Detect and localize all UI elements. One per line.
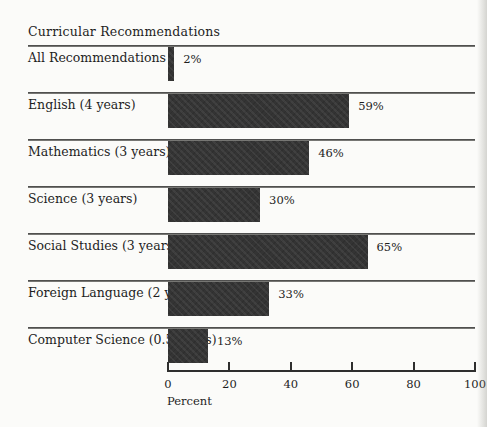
bar	[168, 188, 260, 222]
x-axis-tick	[351, 362, 353, 372]
x-axis-tick-label: 40	[283, 377, 298, 391]
bar	[168, 94, 349, 128]
x-axis-tick-label: 80	[406, 377, 421, 391]
bar	[168, 282, 269, 316]
bar-row: Science (3 years)30%	[28, 186, 475, 233]
value-label: 13%	[217, 334, 243, 348]
x-axis-tick-label: 60	[345, 377, 360, 391]
x-axis-tick	[474, 362, 476, 372]
x-axis-tick	[413, 362, 415, 372]
row-separator	[28, 45, 475, 47]
value-label: 2%	[183, 52, 201, 66]
bar-row: Computer Science (0.5 years)13%	[28, 327, 475, 374]
value-label: 65%	[377, 240, 403, 254]
bar-rows: All Recommendations2%English (4 years)59…	[28, 45, 475, 374]
value-label: 59%	[358, 99, 384, 113]
category-label: Social Studies (3 years)	[28, 238, 178, 253]
x-axis-tick	[290, 362, 292, 372]
bar-row: Foreign Language (2 years)33%	[28, 280, 475, 327]
x-axis-label: Percent	[167, 394, 212, 408]
row-separator	[28, 327, 475, 329]
category-label: All Recommendations	[28, 50, 166, 65]
bar	[168, 329, 208, 363]
value-label: 30%	[269, 193, 295, 207]
x-axis-tick	[167, 362, 169, 372]
category-label: Science (3 years)	[28, 191, 137, 206]
x-axis-tick-label: 0	[164, 377, 171, 391]
category-label: English (4 years)	[28, 97, 136, 112]
x-axis-tick	[228, 362, 230, 372]
chart-title: Curricular Recommendations	[28, 24, 220, 39]
value-label: 46%	[318, 146, 344, 160]
bar	[168, 141, 309, 175]
scan-edge-shadow	[477, 0, 487, 427]
bar-row: English (4 years)59%	[28, 92, 475, 139]
x-axis-line	[168, 370, 476, 372]
x-axis-tick-label: 20	[222, 377, 237, 391]
bar	[168, 47, 174, 81]
chart-page: Curricular Recommendations All Recommend…	[0, 0, 487, 427]
bar	[168, 235, 368, 269]
bar-row: Social Studies (3 years)65%	[28, 233, 475, 280]
value-label: 33%	[278, 287, 304, 301]
bar-row: All Recommendations2%	[28, 45, 475, 92]
category-label: Mathematics (3 years)	[28, 144, 170, 159]
bar-row: Mathematics (3 years)46%	[28, 139, 475, 186]
